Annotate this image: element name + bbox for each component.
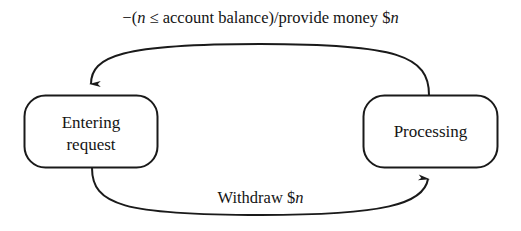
state-diagram: −(n ≤ account balance)/provide money $n … xyxy=(0,0,521,231)
state-entering-request xyxy=(25,96,158,168)
state-processing xyxy=(364,96,498,168)
transition-arrow-processing-to-entering-request xyxy=(91,44,429,95)
transition-arrow-entering-request-to-processing xyxy=(92,168,428,215)
diagram-canvas xyxy=(0,0,521,231)
